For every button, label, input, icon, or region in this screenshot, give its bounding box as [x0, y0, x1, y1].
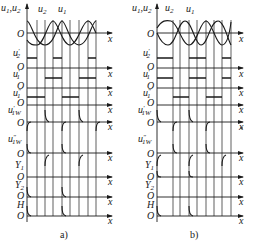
pulses-Y2 — [27, 187, 66, 197]
pulses-u1W-prime — [45, 110, 83, 122]
svg-text:H: H — [146, 199, 155, 210]
y-label-u1-u2: u1,u2 — [1, 2, 21, 15]
x-axes — [157, 33, 243, 216]
svg-text:O: O — [147, 148, 154, 159]
svg-text:x: x — [107, 176, 113, 187]
svg-text:x: x — [107, 87, 113, 98]
svg-text:O: O — [147, 97, 154, 108]
curve-label-u1: u1 — [186, 3, 195, 16]
y-label-u1-u2: u1,u2 — [132, 2, 152, 15]
panel-b — [157, 4, 243, 222]
svg-text:x: x — [107, 68, 113, 79]
pulses-u1W-dprime — [173, 122, 243, 153]
svg-text:u″1W: u″1W — [138, 133, 152, 146]
svg-text:x: x — [107, 215, 113, 226]
svg-text:x: x — [238, 152, 244, 163]
panel-a — [27, 4, 112, 222]
pulses-Y1 — [157, 155, 226, 166]
curve-label-u2: u2 — [38, 3, 47, 16]
caption-b: b) — [190, 229, 198, 241]
phase-comparison-timing-diagram: u1,u2 u2 u1 O u′2 O u′1 O u″1 O u′1W O u… — [0, 0, 264, 246]
svg-text:u″1W: u″1W — [8, 133, 22, 146]
svg-text:H: H — [16, 199, 25, 210]
svg-text:x: x — [238, 68, 244, 79]
svg-text:x: x — [238, 33, 244, 44]
svg-text:x: x — [238, 215, 244, 226]
svg-text:x: x — [238, 87, 244, 98]
svg-text:O: O — [147, 28, 154, 39]
svg-text:O: O — [17, 28, 24, 39]
svg-text:u′2: u′2 — [13, 47, 21, 60]
svg-text:x: x — [238, 196, 244, 207]
svg-text:O: O — [147, 210, 154, 221]
svg-text:O: O — [17, 210, 24, 221]
svg-text:x: x — [107, 152, 113, 163]
pulses-Y2 — [157, 171, 193, 177]
svg-text:x: x — [107, 121, 113, 132]
svg-text:x: x — [238, 121, 244, 132]
svg-text:x: x — [107, 104, 113, 115]
caption-a: a) — [60, 229, 68, 241]
svg-text:x: x — [238, 104, 244, 115]
pulses-Y1 — [45, 155, 83, 166]
svg-text:x: x — [238, 176, 244, 187]
grid-lines — [173, 20, 231, 216]
pulses-H — [27, 206, 66, 216]
labels-panel-b: u1,u2 u2 u1 O u′2 O u′1 O u″1 O u′1W O u… — [132, 2, 244, 241]
svg-text:u′2: u′2 — [143, 47, 151, 60]
pulses-u1W-dprime — [27, 122, 100, 153]
svg-text:O: O — [17, 148, 24, 159]
curve-label-u2: u2 — [165, 2, 174, 15]
svg-text:O: O — [17, 117, 24, 128]
pulses-H — [157, 206, 193, 216]
x-axes — [27, 33, 112, 216]
svg-text:O: O — [17, 97, 24, 108]
svg-text:x: x — [107, 196, 113, 207]
svg-text:x: x — [107, 33, 113, 44]
curve-label-u1: u1 — [58, 3, 67, 16]
pulses-u1W-prime — [157, 110, 193, 122]
svg-text:O: O — [147, 117, 154, 128]
